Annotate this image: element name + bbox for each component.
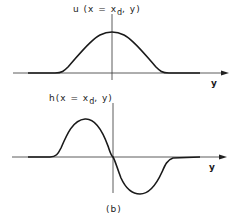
top-ylabel: u (x = xd, y) [73,4,141,17]
top-panel [13,14,229,80]
figure-caption: (b) [106,204,122,214]
figure-canvas [0,0,235,220]
bottom-ylabel: h(x = xd, y) [49,93,113,106]
bottom-xlabel: y [209,162,215,172]
top-axis-arrow-icon [221,71,229,76]
bottom-curve-h [28,119,200,194]
bottom-axis-arrow-icon [219,155,227,160]
bottom-panel [12,103,227,194]
bottom-ylabel-text: h(x = x [49,93,89,103]
top-ylabel-suffix: , y) [122,4,141,14]
top-ylabel-text: u (x = x [73,4,117,14]
top-xlabel: y [211,78,217,88]
top-curve-u [28,32,200,73]
bottom-ylabel-suffix: , y) [94,93,113,103]
